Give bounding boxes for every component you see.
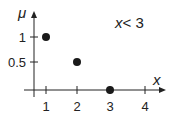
x-tick-label-1: 1 <box>42 99 49 114</box>
data-point-1 <box>42 33 50 41</box>
x-axis-label: x <box>152 71 161 88</box>
data-point-3 <box>106 86 114 94</box>
x-tick-label-3: 3 <box>106 99 113 114</box>
y-axis-label: μ <box>17 4 26 21</box>
membership-chart: 1 2 3 4 1 0.5 μ x x< 3 <box>0 0 174 116</box>
x-tick-label-2: 2 <box>73 99 80 114</box>
y-tick-label-0.5: 0.5 <box>8 55 26 70</box>
chart-root: 1 2 3 4 1 0.5 μ x x< 3 <box>0 0 174 116</box>
x-tick-label-4: 4 <box>141 99 148 114</box>
condition-annotation: x< 3 <box>114 14 144 31</box>
y-axis-arrow-icon <box>31 11 37 18</box>
data-point-2 <box>73 58 81 66</box>
y-tick-label-1: 1 <box>19 30 26 45</box>
